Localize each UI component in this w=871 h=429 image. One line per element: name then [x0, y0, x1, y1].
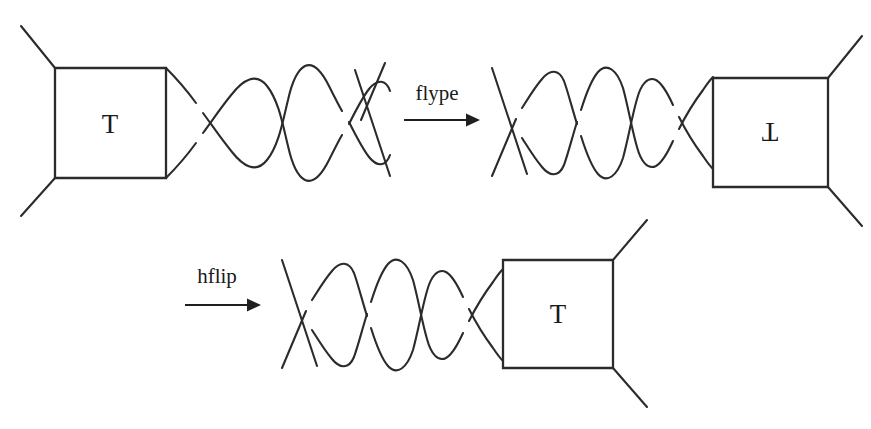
braid-strand-a-seg2 — [203, 65, 342, 167]
braid-strand-b-seg3 — [349, 82, 390, 124]
braid-strand-b-seg2 — [203, 79, 342, 181]
operation-flype: flype — [404, 81, 480, 127]
braid2-strand-b-seg1 — [522, 122, 577, 174]
flype-label: flype — [415, 81, 458, 105]
hflip-label: hflip — [197, 264, 237, 288]
diagram-top-left: T — [21, 26, 390, 216]
braid3-strand-b-seg1 — [312, 314, 367, 366]
tangle-box-label-top-left: T — [102, 109, 119, 139]
leg-bottom-lower — [613, 368, 647, 407]
diagram-bottom: T — [282, 220, 647, 407]
braid2-strand-a-seg1 — [522, 72, 577, 124]
braid2-tail-lower-left — [492, 119, 516, 176]
leg-top-left-upper — [21, 26, 55, 68]
figure-canvas: T flype — [0, 0, 871, 429]
braid3-strand-b-seg3 — [469, 269, 503, 321]
braid-strand-a-seg1 — [166, 68, 196, 103]
braid2-strand-b-seg3 — [679, 77, 713, 129]
diagram-top-right: T — [492, 36, 862, 226]
leg-top-right-lower — [828, 187, 862, 226]
tangle-flype-diagram: T flype — [0, 0, 871, 429]
braid2-tail-upper-left — [492, 68, 527, 174]
braid3-tail-upper-left — [282, 260, 317, 366]
braid3-tail-lower-left — [282, 311, 306, 368]
tangle-box-label-bottom: T — [550, 299, 567, 329]
leg-top-right-upper — [828, 36, 862, 78]
braid2-strand-a-seg3 — [679, 117, 713, 169]
braid3-strand-a-seg3 — [469, 309, 503, 361]
flype-arrow-head-icon — [466, 114, 480, 127]
operation-hflip: hflip — [185, 264, 261, 312]
tangle-box-label-top-right: T — [761, 117, 778, 147]
braid3-strand-a-seg1 — [312, 264, 367, 316]
hflip-arrow-head-icon — [247, 299, 261, 312]
braid-tail-lower-right — [361, 63, 385, 120]
braid-strand-b-seg1 — [166, 143, 196, 178]
leg-top-left-lower — [21, 178, 55, 216]
leg-bottom-upper — [613, 220, 647, 260]
